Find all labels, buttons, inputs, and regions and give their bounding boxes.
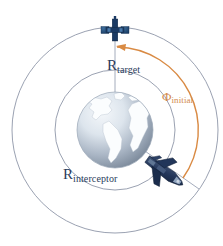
r-interceptor-base: R	[63, 166, 73, 182]
earth-globe	[77, 92, 153, 168]
r-target-base: R	[107, 57, 117, 73]
phi-initial-subscript: initial	[172, 95, 194, 105]
r-target-label: Rtarget	[107, 57, 140, 73]
phi-initial-label: Φinitial	[162, 88, 193, 104]
r-target-subscript: target	[117, 64, 140, 75]
diagram-canvas	[0, 0, 223, 246]
orbital-rendezvous-diagram: Rtarget Rinterceptor Φinitial	[0, 0, 223, 246]
r-interceptor-label: Rinterceptor	[63, 166, 117, 182]
r-interceptor-subscript: interceptor	[73, 173, 117, 184]
phi-initial-base: Φ	[162, 89, 172, 104]
target-satellite	[101, 16, 129, 41]
interceptor-spacecraft	[138, 146, 192, 198]
